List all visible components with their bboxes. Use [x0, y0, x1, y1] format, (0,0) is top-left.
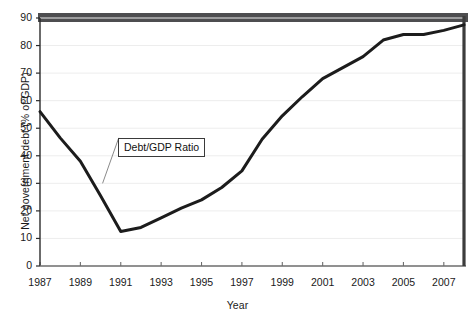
- x-tick-label: 2001: [303, 276, 343, 288]
- y-tick-label: 50: [6, 121, 32, 133]
- y-tick-label: 90: [6, 11, 32, 23]
- y-tick-label: 40: [6, 149, 32, 161]
- y-tick-label: 20: [6, 204, 32, 216]
- x-tick-label: 1991: [101, 276, 141, 288]
- x-tick-label: 2005: [383, 276, 423, 288]
- x-tick-label: 2007: [424, 276, 464, 288]
- y-tick-label: 80: [6, 39, 32, 51]
- x-tick-label: 1987: [20, 276, 60, 288]
- gridlines: [40, 18, 464, 238]
- x-tick-label: 1989: [60, 276, 100, 288]
- x-tick-label: 1999: [262, 276, 302, 288]
- annotation-label-debt-gdp-ratio: Debt/GDP Ratio: [118, 138, 205, 157]
- chart-figure: Net government debt (% of GDP) Year Debt…: [0, 0, 475, 313]
- y-tick-label: 10: [6, 231, 32, 243]
- y-tick-label: 70: [6, 66, 32, 78]
- annotation-leader-line: [103, 138, 119, 183]
- x-tick-label: 1995: [182, 276, 222, 288]
- plot-area: [0, 0, 475, 313]
- x-tick-label: 2003: [343, 276, 383, 288]
- y-tick-label: 60: [6, 94, 32, 106]
- axis-ticks: [36, 18, 444, 266]
- x-tick-label: 1997: [222, 276, 262, 288]
- y-tick-label: 0: [6, 259, 32, 271]
- x-tick-label: 1993: [141, 276, 181, 288]
- y-tick-label: 30: [6, 176, 32, 188]
